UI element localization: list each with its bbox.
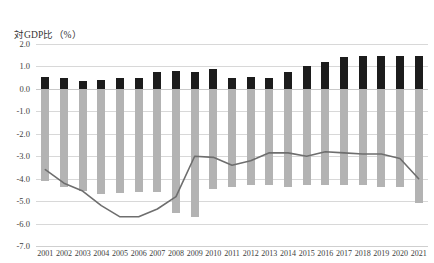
x-axis-tick-label: 2012 [243,249,259,258]
negative-bar-segment [228,89,236,187]
negative-bar-segment [303,89,311,186]
x-axis-tick-label: 2004 [93,249,109,258]
y-axis-tick-label: -4.0 [0,174,30,184]
positive-bar-segment [303,66,311,88]
x-axis-tick-label: 2019 [373,249,389,258]
negative-bar-segment [340,89,348,186]
positive-bar-segment [340,57,348,88]
bar-group [335,44,354,246]
negative-bar-segment [415,89,423,203]
x-axis-baseline [36,246,428,247]
x-axis-tick-label: 2015 [299,249,315,258]
positive-bar-segment [135,78,143,89]
y-axis-tick-label: -3.0 [0,151,30,161]
positive-bar-segment [41,77,49,89]
bar-group [279,44,298,246]
positive-bar-segment [284,72,292,89]
x-axis-tick-label: 2002 [56,249,72,258]
negative-bar-segment [321,89,329,186]
bar-group [223,44,242,246]
bar-group [316,44,335,246]
negative-bar-segment [209,89,217,189]
positive-bar-segment [209,69,217,89]
y-axis-tick-label: -7.0 [0,241,30,251]
positive-bar-segment [172,71,180,89]
x-axis-tick-label: 2020 [392,249,408,258]
negative-bar-segment [396,89,404,187]
y-axis-tick-label: -5.0 [0,196,30,206]
y-axis-tick-label: 2.0 [0,39,30,49]
bar-group [185,44,204,246]
bar-group [36,44,55,246]
x-axis-tick-label: 2013 [261,249,277,258]
bar-group [92,44,111,246]
positive-bar-segment [153,72,161,89]
negative-bar-segment [172,89,180,214]
bar-group [391,44,410,246]
negative-bar-segment [247,89,255,186]
x-axis-tick-label: 2021 [411,249,427,258]
bar-group [353,44,372,246]
x-axis-tick-label: 2017 [336,249,352,258]
positive-bar-segment [79,81,87,89]
x-axis-tick-label: 2010 [205,249,221,258]
bar-group [204,44,223,246]
x-axis-tick-label: 2011 [224,249,240,258]
x-axis-tick-label: 2014 [280,249,296,258]
negative-bar-segment [284,89,292,187]
y-axis-tick-label: -6.0 [0,219,30,229]
bar-group [241,44,260,246]
bar-series [36,44,428,246]
x-axis-tick-label: 2018 [355,249,371,258]
y-axis-tick-label: -2.0 [0,129,30,139]
x-axis-tick-label: 2005 [112,249,128,258]
positive-bar-segment [97,80,105,89]
gdp-ratio-chart: 対GDP比（%） 2.01.00.0-1.0-2.0-3.0-4.0-5.0-6… [0,0,434,263]
positive-bar-segment [60,78,68,89]
negative-bar-segment [41,89,49,181]
bar-group [409,44,428,246]
bar-group [372,44,391,246]
positive-bar-segment [116,78,124,89]
positive-bar-segment [191,72,199,89]
negative-bar-segment [60,89,68,187]
y-axis-tick-label: 1.0 [0,61,30,71]
negative-bar-segment [377,89,385,187]
negative-bar-segment [79,89,87,191]
negative-bar-segment [359,89,367,186]
bar-group [148,44,167,246]
y-axis-tick-label: -1.0 [0,106,30,116]
x-axis-tick-label: 2009 [187,249,203,258]
bar-group [167,44,186,246]
bar-group [73,44,92,246]
bar-group [129,44,148,246]
x-axis-tick-label: 2008 [168,249,184,258]
bar-group [260,44,279,246]
bar-group [111,44,130,246]
negative-bar-segment [97,89,105,194]
positive-bar-segment [228,78,236,89]
positive-bar-segment [247,77,255,89]
negative-bar-segment [116,89,124,193]
positive-bar-segment [321,62,329,89]
x-axis-tick-label: 2006 [131,249,147,258]
positive-bar-segment [359,56,367,89]
y-axis-tick-label: 0.0 [0,84,30,94]
plot-area [36,44,428,246]
x-axis-tick-label: 2001 [37,249,53,258]
negative-bar-segment [153,89,161,192]
negative-bar-segment [191,89,199,217]
bar-group [55,44,74,246]
x-axis-tick-label: 2003 [75,249,91,258]
bar-group [297,44,316,246]
x-axis-tick-label: 2007 [149,249,165,258]
positive-bar-segment [377,56,385,89]
positive-bar-segment [396,56,404,89]
positive-bar-segment [415,56,423,89]
x-axis-tick-label: 2016 [317,249,333,258]
negative-bar-segment [135,89,143,192]
negative-bar-segment [265,89,273,186]
positive-bar-segment [265,78,273,89]
